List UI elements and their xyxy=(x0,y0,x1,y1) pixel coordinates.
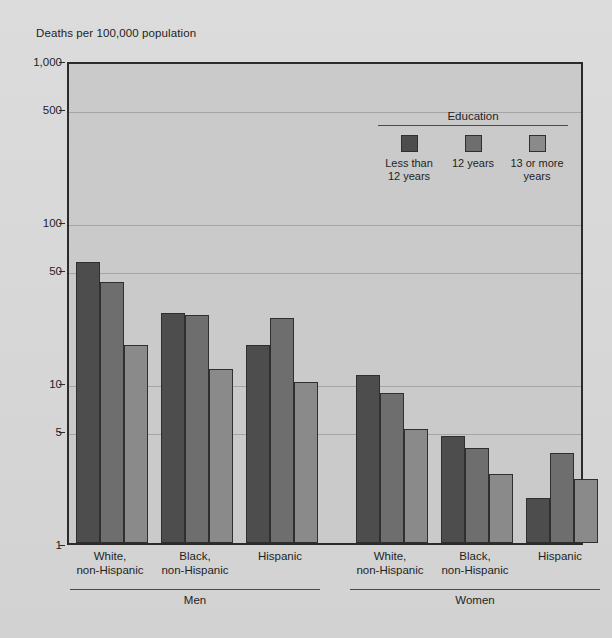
y-axis-tick-mark xyxy=(59,384,65,385)
bar xyxy=(574,479,598,543)
bar xyxy=(465,448,489,543)
bar xyxy=(526,498,550,543)
chart-page: Deaths per 100,000 population 1,00050010… xyxy=(0,0,612,638)
bar xyxy=(161,313,185,543)
y-axis-tick-mark xyxy=(59,110,65,111)
y-axis-tick-mark xyxy=(59,62,65,63)
bar xyxy=(270,318,294,543)
gridline xyxy=(69,273,581,274)
legend-swatch xyxy=(529,135,546,152)
bar xyxy=(100,282,124,543)
legend-item-label: 12 years xyxy=(442,157,504,170)
legend-item-label: Less than12 years xyxy=(378,157,440,182)
x-axis-group-label: Hispanic xyxy=(510,550,610,564)
bar xyxy=(209,369,233,543)
bar xyxy=(356,375,380,543)
legend-title: Education xyxy=(378,110,568,122)
y-axis-tick-mark xyxy=(59,545,65,546)
section-divider xyxy=(70,589,320,590)
bar xyxy=(380,393,404,543)
legend-item-label: 13 or moreyears xyxy=(506,157,568,182)
bar xyxy=(246,345,270,543)
bar xyxy=(441,436,465,543)
y-axis-tick-marks xyxy=(0,62,67,545)
bar xyxy=(185,315,209,543)
bar xyxy=(76,262,100,543)
bar xyxy=(550,453,574,543)
bar xyxy=(124,345,148,543)
legend-swatch xyxy=(465,135,482,152)
y-axis-title: Deaths per 100,000 population xyxy=(36,27,196,39)
x-axis-group-label: Hispanic xyxy=(230,550,330,564)
legend-swatch xyxy=(401,135,418,152)
gridline xyxy=(69,225,581,226)
section-label: Men xyxy=(70,594,320,606)
legend-item: 12 years xyxy=(442,135,504,182)
y-axis-tick-mark xyxy=(59,271,65,272)
bar xyxy=(404,429,428,543)
legend: Education Less than12 years12 years13 or… xyxy=(378,110,568,182)
legend-divider xyxy=(378,125,568,126)
y-axis-tick-mark xyxy=(59,432,65,433)
y-axis-tick-mark xyxy=(59,223,65,224)
bar xyxy=(294,382,318,543)
legend-item: 13 or moreyears xyxy=(506,135,568,182)
bar xyxy=(489,474,513,543)
legend-item: Less than12 years xyxy=(378,135,440,182)
legend-items: Less than12 years12 years13 or moreyears xyxy=(378,135,568,182)
section-label: Women xyxy=(350,594,600,606)
section-divider xyxy=(350,589,600,590)
